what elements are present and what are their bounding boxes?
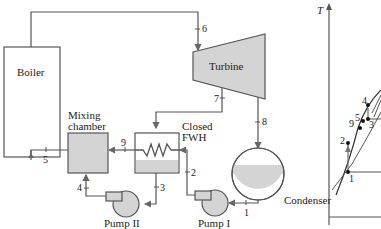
state-2-label: 2	[191, 168, 196, 178]
boiler-box	[4, 47, 60, 157]
boiler-label: Boiler	[17, 67, 45, 78]
ts-point-1: 1	[349, 174, 354, 184]
ts-axis-t-label: T	[317, 5, 323, 16]
state-6-label: 6	[202, 24, 207, 34]
closed-fwh-label-2: FWH	[182, 132, 206, 143]
condenser-label: Condenser	[284, 195, 331, 206]
state-5-label: 5	[43, 155, 48, 165]
state-1-label: 1	[244, 208, 249, 218]
ts-point-5: 5	[355, 113, 360, 123]
state-9-label: 9	[121, 138, 126, 148]
ts-point-9: 9	[349, 119, 354, 129]
ts-point-3: 3	[369, 120, 374, 130]
mixing-chamber-label-2: chamber	[68, 121, 106, 132]
state-4-label: 4	[77, 183, 82, 193]
turbine-label: Turbine	[209, 61, 243, 72]
pump-1-label: Pump I	[198, 218, 230, 229]
ts-point-4: 4	[362, 96, 367, 106]
state-7-label: 7	[214, 94, 219, 104]
state-8-label: 8	[262, 117, 267, 127]
pump-2-label: Pump II	[104, 218, 140, 229]
ts-point-2: 2	[340, 136, 345, 146]
state-3-label: 3	[160, 183, 165, 193]
